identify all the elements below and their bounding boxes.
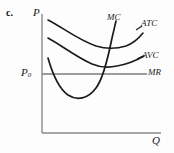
average-variable-cost-curve <box>48 38 144 67</box>
average-total-cost-curve <box>48 20 143 48</box>
mc-curve-label: MC <box>107 13 121 22</box>
cost-curve-figure: c. P Q P0 MC ATC AVC MR <box>0 0 174 153</box>
avc-curve-label: AVC <box>142 51 159 60</box>
x-axis-label: Q <box>152 135 160 146</box>
y-axis-label: P <box>33 7 40 18</box>
atc-curve-label: ATC <box>141 19 157 28</box>
price-level-label: P0 <box>21 67 31 79</box>
price-level-letter: P <box>21 66 28 78</box>
panel-letter: c. <box>6 8 13 18</box>
price-level-subscript: 0 <box>28 71 32 79</box>
mr-line-label: MR <box>148 68 161 77</box>
